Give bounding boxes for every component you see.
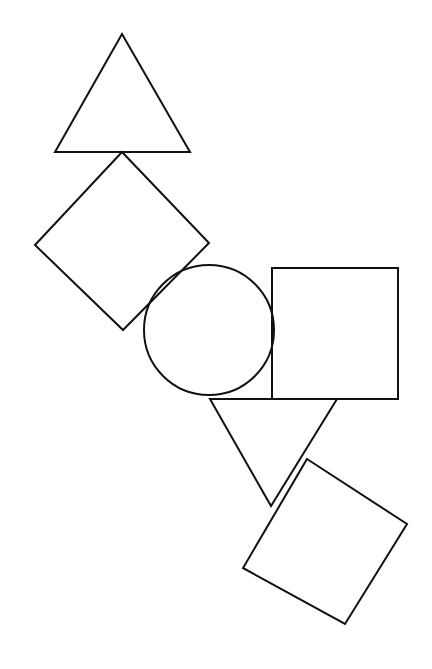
figure-canvas: [0, 0, 432, 669]
canvas-background: [0, 0, 432, 669]
shapes-diagram: [0, 0, 432, 669]
